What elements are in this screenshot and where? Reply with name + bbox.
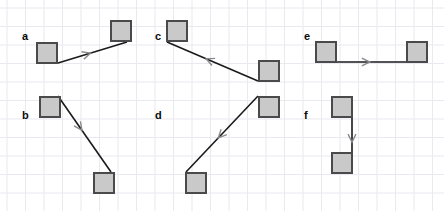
panel-label-c: c [155, 31, 161, 42]
grid-background [0, 0, 444, 211]
figure-canvas: abcdef [0, 0, 444, 211]
panel-label-d: d [155, 110, 162, 121]
panel-label-a: a [22, 31, 28, 42]
panel-label-e: e [304, 31, 310, 42]
panel-label-b: b [22, 110, 29, 121]
panel-label-f: f [304, 110, 308, 121]
